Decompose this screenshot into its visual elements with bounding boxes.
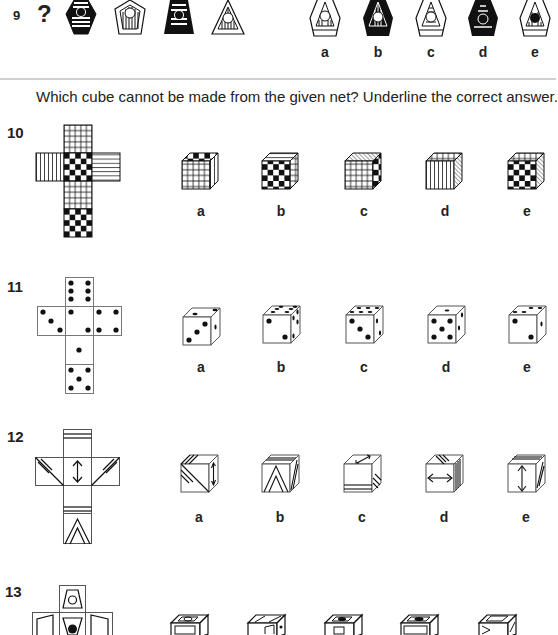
q13-option-e-cube[interactable] — [478, 614, 520, 634]
q10-option-d-label[interactable]: d — [435, 203, 455, 219]
q9-option-b-label[interactable]: b — [368, 44, 388, 60]
q11-option-b-die[interactable] — [263, 306, 305, 350]
sequence-shape-hexagon — [64, 0, 98, 36]
q10-option-b-label[interactable]: b — [271, 203, 291, 219]
q12-net — [35, 429, 121, 544]
q9-option-d-label[interactable]: d — [473, 44, 493, 60]
q10-option-c-label[interactable]: c — [354, 203, 374, 219]
question-12-number: 12 — [7, 428, 24, 445]
q9-option-a-label[interactable]: a — [315, 44, 335, 60]
q9-option-e-shape[interactable] — [518, 0, 552, 38]
q10-option-c-cube[interactable] — [345, 153, 387, 195]
q12-option-b-cube[interactable] — [262, 455, 304, 497]
question-10-number: 10 — [7, 124, 24, 141]
q12-option-c-label[interactable]: c — [352, 509, 372, 525]
sequence-shape-triangle — [210, 0, 246, 36]
q11-option-a-label[interactable]: a — [191, 359, 211, 375]
missing-item-marker: ? — [37, 0, 52, 28]
q11-option-c-die[interactable] — [346, 306, 388, 350]
q10-net — [36, 125, 122, 243]
q11-option-e-die[interactable] — [509, 306, 551, 350]
q11-option-e-label[interactable]: e — [517, 359, 537, 375]
q12-option-e-label[interactable]: e — [516, 509, 536, 525]
q10-option-b-cube[interactable] — [262, 153, 304, 195]
q11-net — [37, 277, 125, 395]
q9-option-b-shape[interactable] — [361, 0, 395, 38]
q11-option-a-die[interactable] — [183, 308, 225, 350]
q13-net — [32, 585, 114, 635]
q10-option-a-cube[interactable] — [182, 153, 224, 195]
q9-option-d-shape[interactable] — [466, 0, 500, 38]
q10-option-e-cube[interactable] — [508, 153, 550, 195]
question-9-number: 9 — [13, 8, 20, 23]
q10-option-d-cube[interactable] — [426, 153, 468, 195]
instruction-text: Which cube cannot be made from the given… — [36, 88, 558, 105]
sequence-shape-pentagon — [113, 0, 147, 36]
q11-option-d-label[interactable]: d — [436, 359, 456, 375]
q12-option-c-cube[interactable] — [344, 455, 386, 497]
q12-option-b-label[interactable]: b — [270, 509, 290, 525]
question-13-number: 13 — [5, 583, 22, 600]
q9-option-c-label[interactable]: c — [421, 44, 441, 60]
q12-option-d-cube[interactable] — [426, 455, 468, 497]
q12-option-a-label[interactable]: a — [189, 509, 209, 525]
q10-option-a-label[interactable]: a — [191, 203, 211, 219]
q12-option-e-cube[interactable] — [508, 455, 550, 497]
sequence-shape-trapezoid — [162, 0, 196, 36]
q13-option-d-cube[interactable] — [400, 614, 442, 634]
q11-option-d-die[interactable] — [428, 306, 470, 350]
q13-option-b-cube[interactable] — [247, 614, 289, 634]
q9-option-e-label[interactable]: e — [525, 44, 545, 60]
section-divider — [0, 78, 556, 80]
q9-option-c-shape[interactable] — [414, 0, 448, 38]
q13-option-a-cube[interactable] — [170, 614, 212, 634]
q12-option-d-label[interactable]: d — [434, 509, 454, 525]
q13-option-c-cube[interactable] — [324, 614, 366, 634]
q11-option-c-label[interactable]: c — [354, 359, 374, 375]
q9-option-a-shape[interactable] — [308, 0, 342, 38]
q10-option-e-label[interactable]: e — [517, 203, 537, 219]
q12-option-a-cube[interactable] — [181, 455, 223, 497]
question-11-number: 11 — [7, 278, 23, 295]
q11-option-b-label[interactable]: b — [271, 359, 291, 375]
